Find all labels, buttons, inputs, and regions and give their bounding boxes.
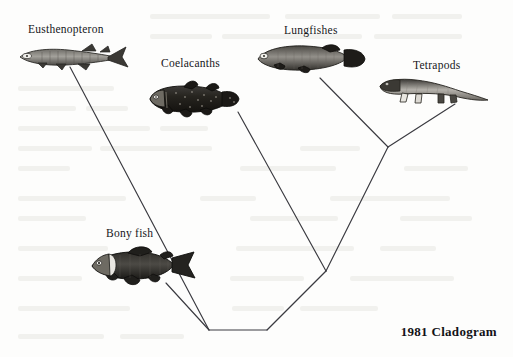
taxon-label-tetrapods: Tetrapods [413,60,460,72]
lungfish-illustration [252,39,368,77]
eusthenopteron-fish-illustration [12,42,134,72]
taxon-label-lungfishes: Lungfishes [284,25,338,37]
taxon-label-eusthenopteron: Eusthenopteron [28,24,104,36]
bony-fish-illustration [78,244,200,288]
branch-coelacanth-node-to-root [267,271,326,330]
branch-coelacanths [238,112,326,271]
branch-crown-node-to-coelacanth-node [326,147,388,271]
taxon-label-coelacanths: Coelacanths [161,58,220,70]
coelacanth-fish-illustration [140,78,248,120]
taxon-label-bony-fish: Bony fish [106,228,153,240]
tetrapod-salamander-illustration [372,74,494,108]
cladogram-figure: Eusthenopteron Coelacanths Lungfishes Te… [0,0,513,357]
branch-tetrapods [388,104,455,147]
figure-caption: 1981 Cladogram [401,324,497,340]
